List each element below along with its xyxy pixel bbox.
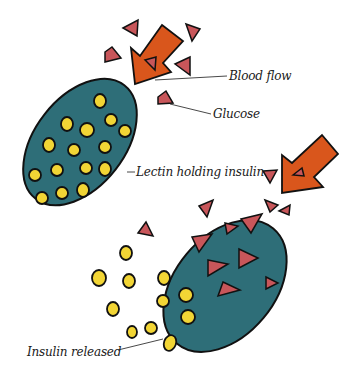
blood-flow-arrow-bottom <box>282 135 338 193</box>
label-lectin-holding-insulin: Lectin holding insulin <box>136 165 264 179</box>
label-glucose: Glucose <box>213 107 260 121</box>
blood-flow-arrow-top <box>131 25 183 84</box>
label-insulin-released: Insulin released <box>27 345 121 359</box>
glucose-labeled <box>158 91 173 104</box>
diagram-canvas <box>0 0 361 382</box>
label-blood-flow: Blood flow <box>229 69 291 83</box>
